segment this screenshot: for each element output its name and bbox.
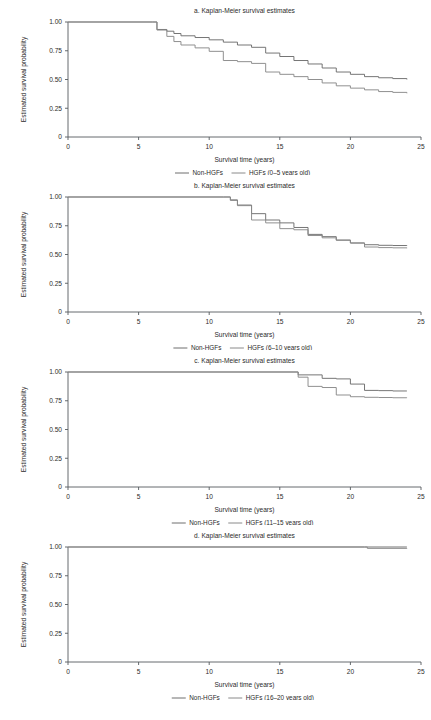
y-tick-label: 0.25 xyxy=(49,455,62,462)
x-tick-label: 5 xyxy=(137,143,141,150)
y-axis-label: Estimated survival probability xyxy=(20,36,28,122)
y-tick-label: 1.00 xyxy=(49,18,62,25)
x-tick-label: 0 xyxy=(66,493,70,500)
y-tick-label: 0.25 xyxy=(49,630,62,637)
x-tick-label: 25 xyxy=(417,318,425,325)
x-tick-label: 25 xyxy=(417,143,425,150)
chart-panel-d: d. Kaplan-Meier survival estimates00.250… xyxy=(0,525,431,700)
x-tick-label: 0 xyxy=(66,318,70,325)
survival-curve-hgfs xyxy=(68,22,407,93)
x-tick-label: 15 xyxy=(276,493,284,500)
x-tick-label: 10 xyxy=(206,318,214,325)
chart-title: d. Kaplan-Meier survival estimates xyxy=(194,532,295,540)
survival-chart-a: a. Kaplan-Meier survival estimates00.250… xyxy=(0,0,431,175)
x-tick-label: 20 xyxy=(347,668,355,675)
x-tick-label: 0 xyxy=(66,143,70,150)
survival-curve-hgfs xyxy=(68,372,407,398)
y-tick-label: 0 xyxy=(58,658,62,665)
figure-page: a. Kaplan-Meier survival estimates00.250… xyxy=(0,0,431,720)
survival-chart-b: b. Kaplan-Meier survival estimates00.250… xyxy=(0,175,431,350)
x-tick-label: 20 xyxy=(347,318,355,325)
x-tick-label: 15 xyxy=(276,318,284,325)
y-tick-label: 0.50 xyxy=(49,76,62,83)
chart-panel-b: b. Kaplan-Meier survival estimates00.250… xyxy=(0,175,431,350)
y-tick-label: 0.75 xyxy=(49,47,62,54)
x-tick-label: 25 xyxy=(417,668,425,675)
survival-curve-hgfs xyxy=(68,197,407,248)
y-tick-label: 0.25 xyxy=(49,105,62,112)
y-tick-label: 0.50 xyxy=(49,251,62,258)
x-tick-label: 10 xyxy=(206,143,214,150)
y-tick-label: 1.00 xyxy=(49,368,62,375)
chart-title: a. Kaplan-Meier survival estimates xyxy=(194,7,295,15)
y-axis-label: Estimated survival probability xyxy=(20,561,28,647)
chart-panel-a: a. Kaplan-Meier survival estimates00.250… xyxy=(0,0,431,175)
legend-label-hgfs: HGFs (16–20 years old) xyxy=(246,694,314,700)
y-axis-label: Estimated survival probability xyxy=(20,211,28,297)
x-axis-label: Survival time (years) xyxy=(214,681,274,689)
x-tick-label: 15 xyxy=(276,143,284,150)
y-tick-label: 0.75 xyxy=(49,222,62,229)
y-tick-label: 1.00 xyxy=(49,543,62,550)
survival-chart-c: c. Kaplan-Meier survival estimates00.250… xyxy=(0,350,431,525)
survival-curve-non-hgfs xyxy=(68,22,407,80)
y-tick-label: 0.50 xyxy=(49,426,62,433)
chart-panel-c: c. Kaplan-Meier survival estimates00.250… xyxy=(0,350,431,525)
x-tick-label: 20 xyxy=(347,493,355,500)
x-tick-label: 10 xyxy=(206,493,214,500)
x-tick-label: 5 xyxy=(137,318,141,325)
chart-title: c. Kaplan-Meier survival estimates xyxy=(194,357,295,365)
y-tick-label: 0 xyxy=(58,133,62,140)
x-axis-label: Survival time (years) xyxy=(214,331,274,339)
x-tick-label: 0 xyxy=(66,668,70,675)
x-tick-label: 10 xyxy=(206,668,214,675)
y-tick-label: 0 xyxy=(58,483,62,490)
survival-curve-non-hgfs xyxy=(68,372,407,391)
y-tick-label: 0 xyxy=(58,308,62,315)
chart-title: b. Kaplan-Meier survival estimates xyxy=(194,182,295,190)
survival-curve-hgfs xyxy=(68,547,407,549)
x-axis-label: Survival time (years) xyxy=(214,506,274,514)
x-tick-label: 20 xyxy=(347,143,355,150)
y-tick-label: 0.75 xyxy=(49,397,62,404)
x-tick-label: 25 xyxy=(417,493,425,500)
legend-label-non-hgfs: Non-HGFs xyxy=(189,694,220,700)
x-tick-label: 5 xyxy=(137,668,141,675)
x-tick-label: 15 xyxy=(276,668,284,675)
y-tick-label: 0.25 xyxy=(49,280,62,287)
y-tick-label: 0.75 xyxy=(49,572,62,579)
y-tick-label: 0.50 xyxy=(49,601,62,608)
x-tick-label: 5 xyxy=(137,493,141,500)
y-tick-label: 1.00 xyxy=(49,193,62,200)
survival-chart-d: d. Kaplan-Meier survival estimates00.250… xyxy=(0,525,431,700)
x-axis-label: Survival time (years) xyxy=(214,156,274,164)
y-axis-label: Estimated survival probability xyxy=(20,386,28,472)
